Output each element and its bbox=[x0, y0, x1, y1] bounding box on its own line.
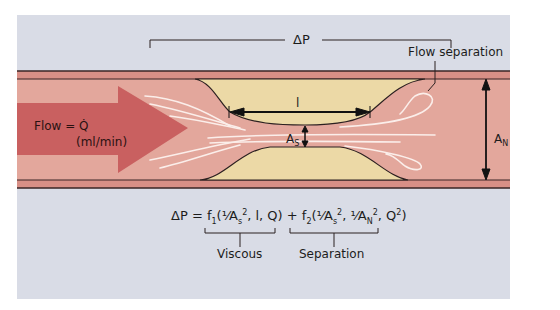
separation-label: Separation bbox=[299, 248, 364, 260]
viscous-bracket bbox=[205, 228, 275, 247]
separation-bracket bbox=[290, 228, 378, 247]
flow-units-label: (ml/min) bbox=[76, 136, 127, 148]
flow-separation-label: Flow separation bbox=[408, 46, 503, 58]
viscous-label: Viscous bbox=[217, 248, 262, 260]
flow-label: Flow = Q̇ bbox=[34, 120, 89, 132]
pressure-drop-equation: ΔP = f1(¹⁄As2, l, Q) + f2(¹⁄As2, ¹⁄AN2, … bbox=[171, 208, 406, 226]
delta-p-label: ΔP bbox=[293, 33, 310, 46]
stenosis-area-label: AS bbox=[286, 133, 299, 148]
length-label: l bbox=[296, 97, 299, 109]
normal-area-label: AN bbox=[494, 133, 508, 148]
